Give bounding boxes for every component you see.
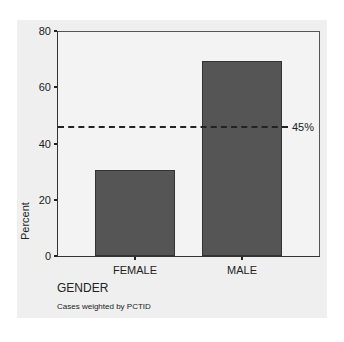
xtick-female <box>134 257 136 260</box>
y-axis <box>57 31 58 257</box>
ytick-label-60: 60 <box>29 81 51 93</box>
bar-male <box>202 61 282 256</box>
xtick-label-male: MALE <box>202 264 282 276</box>
ytick-label-20: 20 <box>29 194 51 206</box>
ytick-0 <box>54 255 57 257</box>
xtick-label-female: FEMALE <box>95 264 175 276</box>
ytick-label-0: 0 <box>29 250 51 262</box>
ytick-40 <box>54 143 57 145</box>
reference-line <box>58 126 288 128</box>
ytick-60 <box>54 86 57 88</box>
x-axis-title: GENDER <box>57 281 108 295</box>
ytick-label-40: 40 <box>29 138 51 150</box>
y-axis-title: Percent <box>19 202 31 240</box>
footnote: Cases weighted by PCTID <box>57 302 151 311</box>
ytick-label-80: 80 <box>29 25 51 37</box>
x-axis <box>57 256 320 257</box>
xtick-male <box>241 257 243 260</box>
ytick-80 <box>54 30 57 32</box>
reference-line-label: 45% <box>292 121 314 133</box>
ytick-20 <box>54 199 57 201</box>
bar-female <box>95 170 175 256</box>
